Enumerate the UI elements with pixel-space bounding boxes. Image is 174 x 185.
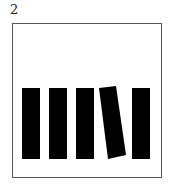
bar-3 xyxy=(76,88,94,159)
bar-2 xyxy=(49,88,67,159)
bar-1 xyxy=(22,88,40,159)
bar-5 xyxy=(132,88,150,159)
bars-diagram xyxy=(0,0,174,185)
bar-4-tilted xyxy=(99,86,126,159)
